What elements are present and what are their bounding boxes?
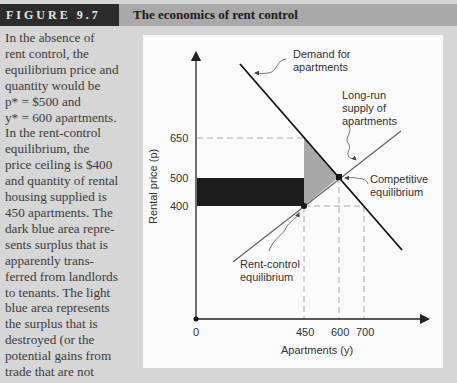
x-tick-600: 600 — [331, 326, 349, 338]
rent-control-equilibrium-point — [301, 203, 307, 209]
x-axis-title: Apartments (y) — [281, 344, 353, 356]
y-tick-500: 500 — [170, 172, 188, 184]
demand-label: Demand forapartments — [293, 48, 351, 73]
supply-label: Long-runsupply ofapartments — [342, 89, 398, 127]
competitive-label: Competitiveequilibrium — [370, 173, 428, 198]
y-tick-650: 650 — [170, 132, 188, 144]
competitive-equilibrium-point — [336, 174, 342, 180]
rent-control-chart: Demand forapartments Long-runsupply ofap… — [0, 0, 457, 383]
reference-lines — [197, 138, 364, 319]
origin-dot — [194, 317, 199, 322]
competitive-leader — [345, 178, 368, 184]
supply-leader — [347, 126, 356, 160]
rent-control-label: Rent-controlequilibrium — [240, 258, 300, 283]
demand-leader — [255, 59, 286, 73]
x-tick-450: 450 — [296, 326, 314, 338]
rent-control-leader — [269, 213, 299, 251]
y-axis-title: Rental price (p) — [147, 149, 159, 224]
x-tick-700: 700 — [356, 326, 374, 338]
dark-surplus-area — [197, 178, 304, 206]
x-tick-0: 0 — [193, 326, 199, 338]
y-tick-400: 400 — [170, 200, 188, 212]
